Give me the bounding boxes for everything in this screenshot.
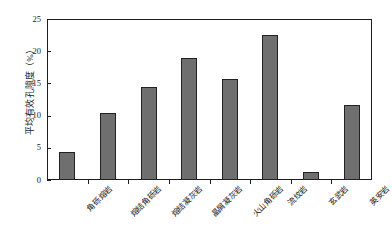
bar: [181, 58, 197, 180]
y-tick-label: 15: [19, 79, 41, 88]
x-axis-label: 角砾熔岩: [86, 184, 115, 213]
x-axis-label: 熔结凝灰岩: [169, 184, 204, 219]
bar: [59, 152, 75, 180]
y-tick-mark: [47, 51, 51, 52]
y-tick-mark: [47, 148, 51, 149]
bar: [262, 35, 278, 180]
y-tick-label: 10: [19, 111, 41, 120]
y-tick-label: 25: [19, 15, 41, 24]
y-tick-mark: [47, 83, 51, 84]
bar: [303, 172, 319, 180]
x-axis-label: 流纹岩: [286, 184, 309, 207]
bar-chart-figure: 平均有效孔隙度（%） 0510152025 角砾熔岩熔结角砾岩熔结凝灰岩晶屑凝灰…: [0, 0, 392, 249]
x-axis-label: 英安岩: [368, 184, 391, 207]
x-axis-labels: 角砾熔岩熔结角砾岩熔结凝灰岩晶屑凝灰岩火山角砾岩流纹岩玄武岩英安岩: [47, 184, 372, 248]
y-tick-label: 0: [19, 176, 41, 185]
y-tick-mark: [47, 116, 51, 117]
x-axis-label: 晶屑凝灰岩: [210, 184, 245, 219]
bar: [141, 87, 157, 180]
bar: [100, 113, 116, 180]
x-axis-label: 玄武岩: [327, 184, 350, 207]
x-axis-label: 火山角砾岩: [251, 184, 286, 219]
bar: [222, 79, 238, 180]
bar: [344, 105, 360, 180]
y-tick-mark: [47, 180, 51, 181]
y-tick-label: 5: [19, 143, 41, 152]
x-axis-label: 熔结角砾岩: [129, 184, 164, 219]
y-tick-mark: [47, 19, 51, 20]
axes-layer: 0510152025: [47, 19, 372, 180]
y-tick-label: 20: [19, 47, 41, 56]
